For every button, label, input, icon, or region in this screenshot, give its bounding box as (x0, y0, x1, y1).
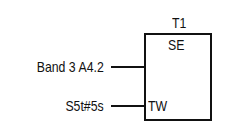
block-type-label: SE (168, 37, 184, 53)
input-signal-tw: S5t#5s (66, 98, 104, 114)
pin-label-tw: TW (148, 98, 167, 114)
block-name-label: T1 (172, 15, 186, 31)
input-signal-start: Band 3 A4.2 (37, 59, 104, 75)
input-line-tw (111, 105, 145, 107)
input-line-start (111, 66, 145, 68)
